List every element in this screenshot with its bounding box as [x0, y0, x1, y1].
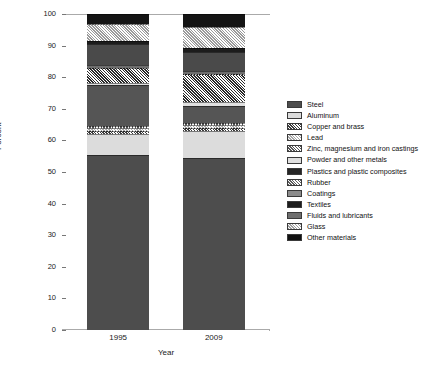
bar-segment: [183, 74, 245, 102]
y-tick-mark: [62, 46, 66, 47]
legend-swatch-icon: [287, 134, 302, 141]
legend-item[interactable]: Plastics and plastic composites: [287, 166, 433, 177]
legend: SteelAluminumCopper and brassLeadZinc, m…: [287, 99, 433, 243]
y-tick-label: 0: [28, 326, 56, 334]
stacked-bar-chart: 0102030405060708090100 Percent 19952009 …: [0, 0, 436, 365]
legend-swatch-icon: [287, 123, 302, 130]
bar-1995[interactable]: [87, 14, 149, 330]
y-tick-label: 40: [28, 200, 56, 208]
bar-segment: [87, 134, 149, 155]
legend-swatch-icon: [287, 168, 302, 175]
x-tick-label: 1995: [83, 333, 153, 342]
legend-swatch-icon: [287, 179, 302, 186]
bar-segment: [183, 52, 245, 71]
legend-item[interactable]: Zinc, magnesium and iron castings: [287, 143, 433, 154]
y-tick-mark: [62, 77, 66, 78]
y-tick-label: 20: [28, 263, 56, 271]
legend-swatch-icon: [287, 223, 302, 230]
legend-label: Aluminum: [307, 112, 339, 119]
x-tick-label: 2009: [179, 333, 249, 342]
legend-item[interactable]: Rubber: [287, 177, 433, 188]
legend-swatch-icon: [287, 234, 302, 241]
bar-segment: [183, 106, 245, 123]
bar-segment: [183, 158, 245, 330]
legend-swatch-icon: [287, 190, 302, 197]
y-tick-label: 70: [28, 105, 56, 113]
legend-label: Textiles: [307, 201, 331, 208]
legend-swatch-icon: [287, 101, 302, 108]
legend-label: Coatings: [307, 190, 335, 197]
legend-label: Steel: [307, 101, 323, 108]
legend-swatch-icon: [287, 212, 302, 219]
y-tick-label: 30: [28, 231, 56, 239]
legend-label: Plastics and plastic composites: [307, 168, 406, 175]
legend-label: Zinc, magnesium and iron castings: [307, 145, 418, 152]
y-tick-mark: [62, 109, 66, 110]
legend-swatch-icon: [287, 145, 302, 152]
y-tick-label: 90: [28, 42, 56, 50]
legend-swatch-icon: [287, 112, 302, 119]
legend-item[interactable]: Copper and brass: [287, 121, 433, 132]
legend-swatch-icon: [287, 157, 302, 164]
y-tick-mark: [62, 267, 66, 268]
bar-segment: [87, 24, 149, 41]
y-tick-label: 60: [28, 136, 56, 144]
bar-segment: [183, 131, 245, 158]
legend-label: Rubber: [307, 179, 331, 186]
y-tick-mark: [62, 172, 66, 173]
legend-item[interactable]: Fluids and lubricants: [287, 210, 433, 221]
y-tick-mark: [62, 14, 66, 15]
legend-item[interactable]: Glass: [287, 221, 433, 232]
x-axis-title: Year: [62, 348, 270, 357]
y-tick-mark: [62, 204, 66, 205]
legend-item[interactable]: Lead: [287, 132, 433, 143]
bar-segment: [87, 68, 149, 83]
legend-swatch-icon: [287, 201, 302, 208]
bar-segment: [87, 44, 149, 65]
bar-segment: [87, 85, 149, 126]
legend-item[interactable]: Other materials: [287, 232, 433, 243]
y-tick-label: 10: [28, 294, 56, 302]
legend-item[interactable]: Aluminum: [287, 110, 433, 121]
legend-label: Powder and other metals: [307, 156, 387, 163]
y-tick-mark: [62, 235, 66, 236]
y-tick-label: 100: [28, 10, 56, 18]
legend-item[interactable]: Coatings: [287, 188, 433, 199]
legend-label: Lead: [307, 134, 323, 141]
y-axis-title: Percent: [0, 122, 3, 150]
legend-item[interactable]: Powder and other metals: [287, 154, 433, 165]
legend-item[interactable]: Textiles: [287, 199, 433, 210]
legend-label: Fluids and lubricants: [307, 212, 373, 219]
y-tick-mark: [62, 298, 66, 299]
bar-segment: [183, 27, 245, 48]
bar-2009[interactable]: [183, 14, 245, 330]
legend-label: Other materials: [307, 234, 356, 241]
bar-segment: [183, 14, 245, 27]
legend-label: Glass: [307, 223, 325, 230]
y-tick-mark: [62, 140, 66, 141]
bar-segment: [87, 155, 149, 330]
y-tick-label: 50: [28, 168, 56, 176]
y-tick-label: 80: [28, 73, 56, 81]
legend-label: Copper and brass: [307, 123, 364, 130]
y-tick-mark: [62, 330, 66, 331]
bar-segment: [87, 14, 149, 23]
legend-item[interactable]: Steel: [287, 99, 433, 110]
